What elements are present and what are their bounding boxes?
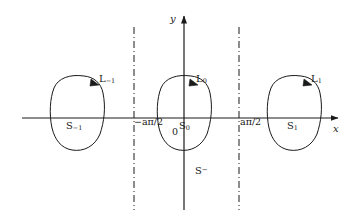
region-label-S-0: S0: [179, 121, 190, 132]
x-axis-label: x: [333, 124, 339, 134]
region-label-S-1: S1: [287, 121, 298, 132]
curve-label-L-0: L0: [196, 74, 207, 85]
region-label-S-minus-sup: −: [202, 166, 208, 174]
origin-label: 0: [172, 127, 178, 137]
region-label-S-minus-1: S−1: [66, 121, 82, 132]
region-label-S-0-base: S: [179, 120, 186, 131]
curve-label-L-0-sub: 0: [203, 77, 207, 85]
curve-label-L-1-sub: 1: [318, 77, 322, 85]
curve-label-L-1-base: L: [311, 73, 318, 84]
tick-label-right: aπ/2: [240, 117, 261, 127]
region-label-S-minus-base: S: [195, 165, 202, 176]
y-axis-label: y: [170, 14, 176, 24]
region-label-S-minus: S−: [195, 166, 208, 176]
tick-label-left: −aπ/2: [134, 117, 163, 127]
closed-curve-L-1: [267, 76, 321, 151]
math-diagram-figure: y x 0 −aπ/2 aπ/2 L−1 L0 L1 S−1 S0 S1 S−: [0, 0, 358, 223]
region-label-S-1-sub: 1: [294, 124, 298, 132]
diagram-canvas: [0, 0, 358, 223]
region-label-S-1-base: S: [287, 120, 294, 131]
curve-label-L-minus-1-base: L: [99, 73, 106, 84]
region-label-S-minus-1-sub: −1: [73, 124, 83, 132]
closed-curve-L-minus-1: [50, 76, 104, 151]
region-label-S-0-sub: 0: [186, 124, 190, 132]
curve-label-L-minus-1-sub: −1: [106, 77, 116, 85]
region-label-S-minus-1-base: S: [66, 120, 73, 131]
curve-label-L-0-base: L: [196, 73, 203, 84]
curve-label-L-minus-1: L−1: [99, 74, 115, 85]
curve-label-L-1: L1: [311, 74, 322, 85]
